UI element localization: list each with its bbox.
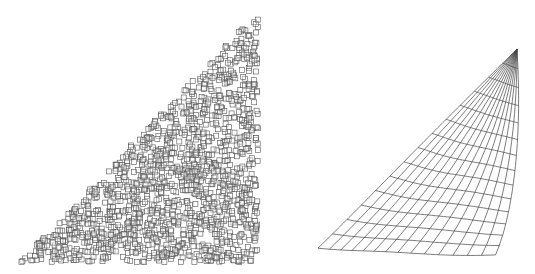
mesh-lines	[318, 49, 519, 256]
square-markers	[19, 17, 260, 264]
point-cloud-panel	[0, 0, 270, 274]
mesh-panel	[270, 0, 535, 274]
point-cloud-plot	[0, 0, 270, 274]
deformed-mesh-plot	[270, 0, 535, 274]
